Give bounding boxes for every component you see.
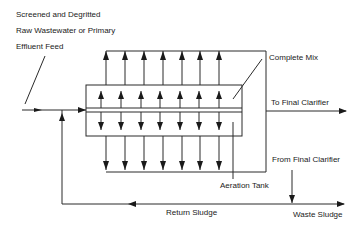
lower-circulation-arrows — [103, 136, 222, 170]
waste-sludge-label: Waste Sludge — [293, 210, 343, 219]
arrow-up-icon — [103, 51, 109, 60]
arrow-down-icon — [160, 161, 166, 170]
to-final-clarifier-label: To Final Clarifier — [271, 98, 329, 107]
return-sludge-riser — [59, 110, 65, 204]
arrow-down-icon — [289, 195, 295, 203]
arrow-right-icon — [34, 108, 42, 112]
arrow-up-icon — [157, 91, 163, 99]
arrow-down-icon — [118, 122, 124, 130]
aeration-tank-label: Aeration Tank — [220, 181, 270, 190]
arrow-down-icon — [157, 122, 163, 130]
arrow-right-icon — [337, 201, 345, 207]
arrow-down-icon — [196, 122, 202, 130]
arrow-up-icon — [141, 51, 147, 60]
complete-mix-leader — [233, 59, 262, 99]
arrow-down-icon — [141, 161, 147, 170]
arrow-down-icon — [179, 161, 185, 170]
from-final-clarifier-label: From Final Clarifier — [272, 155, 340, 164]
feed-label-line1: Screened and Degritted — [16, 10, 101, 19]
arrow-down-icon — [122, 161, 128, 170]
arrow-left-icon — [128, 201, 136, 207]
complete-mix-label: Complete Mix — [269, 53, 318, 62]
arrow-up-icon — [98, 91, 104, 99]
arrow-down-icon — [197, 161, 203, 170]
arrow-up-icon — [197, 51, 203, 60]
arrow-right-icon — [339, 108, 347, 114]
arrow-up-icon — [160, 51, 166, 60]
arrow-up-icon — [122, 51, 128, 60]
feed-flow-line — [22, 107, 86, 113]
arrow-up-icon — [138, 91, 144, 99]
feed-label-line3: Effluent Feed — [16, 42, 63, 51]
arrow-up-icon — [179, 51, 185, 60]
arrow-up-icon — [59, 113, 65, 121]
arrow-up-icon — [177, 91, 183, 99]
arrow-right-icon — [78, 107, 86, 113]
arrow-up-icon — [216, 91, 222, 99]
effluent-flow-line — [266, 108, 347, 114]
arrow-down-icon — [98, 122, 104, 130]
complete-mix-process-diagram: Screened and Degritted Raw Wastewater or… — [0, 0, 356, 230]
arrow-down-icon — [138, 122, 144, 130]
arrow-down-icon — [103, 161, 109, 170]
arrow-down-icon — [216, 161, 222, 170]
feed-leader-line — [25, 56, 45, 104]
arrow-down-icon — [216, 122, 222, 130]
arrow-down-icon — [177, 122, 183, 130]
return-sludge-label: Return Sludge — [166, 208, 218, 217]
inner-down-arrows — [98, 112, 222, 130]
underflow-line — [289, 170, 295, 203]
arrow-up-icon — [118, 91, 124, 99]
arrow-up-icon — [216, 51, 222, 60]
arrow-up-icon — [196, 91, 202, 99]
upper-circulation-arrows — [103, 51, 222, 85]
feed-label-line2: Raw Wastewater or Primary — [16, 26, 115, 35]
inner-up-arrows — [98, 91, 222, 108]
sludge-line — [62, 201, 345, 207]
